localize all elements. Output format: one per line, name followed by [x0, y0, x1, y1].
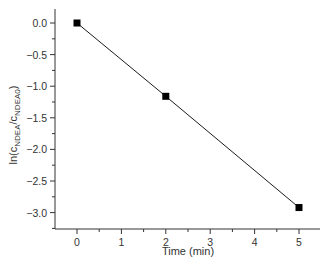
series-line [77, 23, 299, 208]
data-point-marker [74, 20, 81, 27]
y-tick-label: −1.0 [26, 80, 47, 92]
data-point-marker [296, 204, 303, 211]
y-tick-label: −0.5 [26, 49, 47, 61]
y-tick-label: −3.0 [26, 207, 47, 219]
data-series [74, 20, 303, 212]
x-axis-label: Time (min) [162, 245, 214, 257]
axes [55, 9, 320, 229]
x-tick-label: 4 [252, 236, 258, 248]
y-tick-label: −1.5 [26, 112, 47, 124]
y-axis-ticks: 0.0−0.5−1.0−1.5−2.0−2.5−3.0 [26, 17, 55, 228]
x-tick-label: 5 [296, 236, 302, 248]
chart: 012345 0.0−0.5−1.0−1.5−2.0−2.5−3.0 Time … [0, 0, 334, 272]
y-axis-label: ln(cNDEA/cNDEA0) [7, 86, 22, 165]
data-point-marker [162, 93, 169, 100]
y-tick-label: 0.0 [32, 17, 47, 29]
y-tick-label: −2.0 [26, 143, 47, 155]
x-tick-label: 1 [118, 236, 124, 248]
y-tick-label: −2.5 [26, 175, 47, 187]
x-tick-label: 0 [74, 236, 80, 248]
